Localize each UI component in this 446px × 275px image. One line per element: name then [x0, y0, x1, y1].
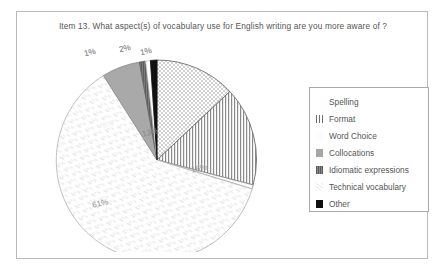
legend-swatch-solid-gray-icon	[316, 149, 323, 157]
legend-label: Format	[329, 114, 355, 124]
legend-label: Technical vocabulary	[329, 182, 406, 192]
legend-swatch-vertical-lines-pattern-icon	[316, 115, 323, 123]
legend-item-collocations[interactable]: Collocations	[310, 144, 428, 161]
chart-title: Item 13. What aspect(s) of vocabulary us…	[17, 21, 429, 31]
legend-item-word-choice[interactable]: Word Choice	[310, 127, 428, 144]
legend-label: Idiomatic expressions	[329, 165, 409, 175]
chart-legend: Spelling Format Word Choice Collocations…	[309, 87, 429, 212]
legend-swatch-solid-black-icon	[316, 200, 323, 208]
pie-svg	[39, 42, 269, 252]
legend-swatch-faint-dots-pattern-icon	[316, 132, 323, 140]
legend-item-spelling[interactable]: Spelling	[310, 93, 428, 110]
pie-chart: 1% 2% 1% 6% 13% 16% 61%	[39, 42, 269, 252]
legend-label: Spelling	[329, 97, 359, 107]
legend-swatch-dark-gray-lines-icon	[316, 166, 323, 174]
legend-swatch-dotted-pattern-icon	[316, 98, 323, 106]
legend-item-other[interactable]: Other	[310, 195, 428, 212]
legend-label: Other	[329, 199, 350, 209]
legend-label: Word Choice	[329, 131, 377, 141]
legend-swatch-light-speckle-pattern-icon	[316, 183, 323, 191]
chart-frame: Item 13. What aspect(s) of vocabulary us…	[16, 11, 428, 259]
legend-label: Collocations	[329, 148, 374, 158]
legend-item-technical-vocabulary[interactable]: Technical vocabulary	[310, 178, 428, 195]
legend-item-idiomatic-expressions[interactable]: Idiomatic expressions	[310, 161, 428, 178]
legend-item-format[interactable]: Format	[310, 110, 428, 127]
